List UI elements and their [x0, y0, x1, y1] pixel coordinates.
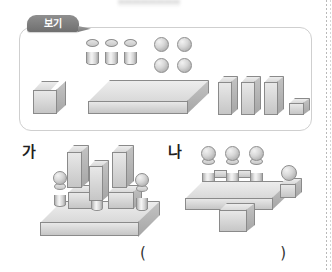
cylinder-icon [54, 183, 66, 207]
flat-slab-icon [88, 80, 209, 115]
connector-bar [214, 170, 227, 178]
tall-block-icon [264, 76, 284, 116]
sphere-icon [225, 146, 240, 161]
sphere-icon [177, 37, 192, 52]
page-edge-dotted-rule [326, 0, 327, 272]
example-box [19, 27, 312, 131]
structure-ga [40, 143, 165, 238]
small-cube-icon [280, 178, 302, 199]
tall-block-icon [218, 76, 238, 116]
sphere-icon [154, 37, 169, 52]
sphere-icon [53, 171, 67, 185]
sphere-icon [249, 146, 264, 161]
cylinder-icon [86, 39, 99, 65]
answer-open-paren: ( [140, 246, 146, 261]
structure-na-label: 나 [168, 145, 182, 160]
page-edge-dotted-rule-secondary [330, 0, 331, 272]
sphere-icon [135, 173, 149, 187]
cube-icon [33, 81, 71, 115]
sphere-icon [281, 165, 297, 181]
structure-ga-label: 가 [22, 145, 36, 160]
answer-close-paren: ) [280, 246, 286, 261]
example-tab: 보기 [27, 15, 79, 32]
tall-block-icon [112, 145, 134, 189]
tall-block-icon [89, 160, 109, 202]
cylinder-icon [136, 185, 148, 211]
tall-block-icon [67, 145, 89, 189]
sphere-icon [201, 146, 216, 161]
connector-bar [238, 170, 251, 178]
cube-icon [219, 203, 255, 233]
small-cube-icon [289, 98, 310, 116]
tall-block-icon [241, 76, 261, 116]
sphere-icon [154, 58, 169, 73]
structure-na [185, 143, 310, 238]
page-scan-smudge [118, 0, 180, 7]
sphere-icon [177, 58, 192, 73]
answer-blank[interactable]: ( ) [140, 243, 286, 263]
example-tab-label: 보기 [44, 19, 63, 29]
cylinder-icon [105, 39, 118, 65]
cylinder-icon [124, 39, 137, 65]
